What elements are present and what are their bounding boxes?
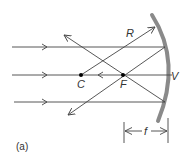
focal-point [121,73,125,77]
center-of-curvature-point [79,73,83,77]
label-c: C [77,78,85,90]
label-f: F [120,78,128,90]
label-focal-length: f [144,125,148,137]
label-r: R [126,27,134,39]
radius-line [81,27,155,75]
concave-mirror-diagram: C F R V f (a) [0,0,194,161]
concave-mirror [152,15,169,121]
figure-caption: (a) [16,141,28,152]
label-v: V [171,70,180,82]
reflected-ray-from-bottom [64,35,165,102]
